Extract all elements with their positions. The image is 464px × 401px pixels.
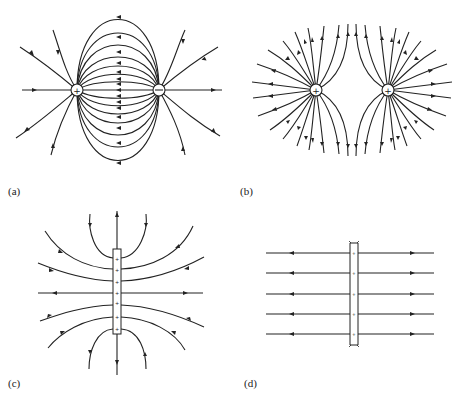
- panel-label-d: (d): [244, 377, 257, 389]
- positive-charge-left: +: [310, 84, 322, 96]
- dipole-field-lines: [16, 15, 222, 165]
- svg-text:+: +: [115, 314, 119, 320]
- svg-text:+: +: [115, 290, 119, 296]
- svg-text:+: +: [73, 86, 81, 96]
- svg-text:+: +: [115, 300, 119, 306]
- panel-label-c: (c): [8, 377, 20, 389]
- panel-b-like-charges-diagram: + +: [252, 24, 452, 156]
- panel-d-infinite-plate-diagram: + + + + +: [266, 241, 434, 347]
- svg-text:+: +: [352, 271, 356, 276]
- panel-c-finite-plate-diagram: + + + + + + +: [38, 211, 204, 375]
- svg-text:+: +: [352, 332, 356, 337]
- svg-text:+: +: [352, 251, 356, 256]
- panel-a-dipole-diagram: +: [16, 15, 222, 165]
- svg-text:+: +: [115, 267, 119, 273]
- negative-charge: [153, 84, 165, 96]
- svg-text:+: +: [115, 326, 119, 332]
- svg-text:+: +: [115, 256, 119, 262]
- like-charges-field-lines: [252, 24, 452, 156]
- field-line-figure: +: [0, 0, 464, 401]
- panel-label-b: (b): [240, 185, 253, 197]
- svg-text:+: +: [312, 86, 320, 96]
- large-charged-plate: + + + + +: [349, 241, 359, 347]
- svg-text:+: +: [115, 279, 119, 285]
- svg-text:+: +: [384, 86, 392, 96]
- svg-text:+: +: [352, 312, 356, 317]
- positive-charge-right: +: [382, 84, 394, 96]
- positive-charge: +: [71, 84, 83, 96]
- svg-text:+: +: [352, 292, 356, 297]
- finite-charged-plate: + + + + + + +: [113, 249, 121, 334]
- panel-label-a: (a): [8, 185, 20, 197]
